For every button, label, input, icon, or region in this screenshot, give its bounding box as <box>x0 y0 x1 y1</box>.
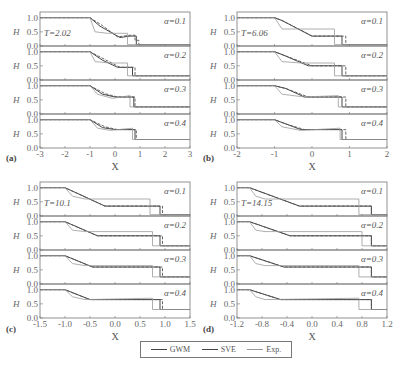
x-tick-label: -1.0 <box>58 319 73 329</box>
y-axis-label: H <box>209 61 217 71</box>
y-tick-label: 1.0 <box>224 115 236 125</box>
legend-item-exp: Exp. <box>247 345 281 354</box>
alpha-label: α=0.3 <box>361 84 384 94</box>
figure: 0.00.51.0Hα=0.1T=2.020.00.51.0Hα=0.20.00… <box>0 0 405 372</box>
y-tick-label: 1.0 <box>27 13 39 23</box>
y-tick-label: 0.5 <box>224 231 236 241</box>
panel-label: (c) <box>6 324 16 334</box>
y-tick-label: 1.0 <box>27 183 39 193</box>
y-tick-label: 0.5 <box>27 197 39 207</box>
x-axis-label: X <box>111 331 119 342</box>
y-tick-label: 1.0 <box>27 285 39 295</box>
x-tick-label: 3 <box>188 149 193 159</box>
panel-label: (a) <box>6 153 17 163</box>
time-label: T=14.15 <box>241 198 273 208</box>
x-tick-label: 0.4 <box>331 319 343 329</box>
x-tick-label: -0.5 <box>83 319 98 329</box>
x-axis-label: X <box>111 161 119 172</box>
subplot: 0.00.51.0Hα=0.2 <box>209 216 387 255</box>
legend-swatch-icon <box>247 349 263 350</box>
y-axis-label: H <box>209 95 217 105</box>
subplot: 0.00.51.0Hα=0.2 <box>12 216 190 255</box>
y-tick-label: 1.0 <box>27 47 39 57</box>
alpha-label: α=0.1 <box>164 186 186 196</box>
y-tick-label: 0.5 <box>27 129 39 139</box>
panel-a: 0.00.51.0Hα=0.1T=2.020.00.51.0Hα=0.20.00… <box>6 12 193 172</box>
panel-b: 0.00.51.0Hα=0.1T=6.060.00.51.0Hα=0.20.00… <box>203 12 389 172</box>
x-tick-label: 2 <box>163 149 168 159</box>
y-tick-label: 0.5 <box>224 265 236 275</box>
x-tick-label: -1.5 <box>33 319 48 329</box>
y-tick-label: 1.0 <box>224 217 236 227</box>
x-tick-label: 0 <box>310 149 315 159</box>
time-label: T=6.06 <box>241 28 268 38</box>
subplot: 0.00.51.0Hα=0.1T=6.06 <box>209 12 387 51</box>
alpha-label: α=0.3 <box>164 84 187 94</box>
x-tick-label: 1.0 <box>159 319 171 329</box>
y-tick-label: 1.0 <box>27 115 39 125</box>
x-tick-label: 0 <box>113 149 118 159</box>
time-label: T=10.1 <box>44 198 71 208</box>
subplot: 0.00.51.0Hα=0.1T=14.15 <box>209 182 387 221</box>
alpha-label: α=0.4 <box>164 118 187 128</box>
y-tick-label: 0.5 <box>27 27 39 37</box>
alpha-label: α=0.2 <box>361 220 384 230</box>
x-tick-label: -1 <box>86 149 94 159</box>
subplot: 0.00.51.0Hα=0.1T=2.02 <box>12 12 190 51</box>
legend-item-gwm: GWM <box>151 345 190 354</box>
y-tick-label: 1.0 <box>224 285 236 295</box>
x-tick-label: -3 <box>36 149 44 159</box>
subplot: 0.00.51.0Hα=0.1T=10.1 <box>12 182 190 221</box>
x-tick-label: -2 <box>61 149 69 159</box>
y-tick-label: 0.5 <box>27 299 39 309</box>
y-axis-label: H <box>209 197 217 207</box>
x-tick-label: 0.0 <box>109 319 121 329</box>
y-tick-label: 0.5 <box>27 265 39 275</box>
y-tick-label: 0.5 <box>27 61 39 71</box>
x-tick-label: 1 <box>138 149 143 159</box>
legend: GWM SVE Exp. <box>140 341 292 358</box>
y-axis-label: H <box>209 27 217 37</box>
y-tick-label: 0.5 <box>27 95 39 105</box>
y-tick-label: 1.0 <box>224 81 236 91</box>
y-tick-label: 0.5 <box>224 197 236 207</box>
x-tick-label: -1.2 <box>230 319 244 329</box>
y-tick-label: 1.0 <box>224 47 236 57</box>
y-tick-label: 0.5 <box>27 231 39 241</box>
subplot: 0.00.51.0Hα=0.4 <box>12 114 190 153</box>
alpha-label: α=0.4 <box>164 288 187 298</box>
y-axis-label: H <box>209 299 217 309</box>
subplot: 0.00.51.0Hα=0.3 <box>209 250 387 289</box>
y-tick-label: 1.0 <box>27 217 39 227</box>
alpha-label: α=0.1 <box>361 16 383 26</box>
x-tick-label: 1.5 <box>184 319 196 329</box>
legend-swatch-icon <box>202 349 218 350</box>
alpha-label: α=0.4 <box>361 118 384 128</box>
alpha-label: α=0.2 <box>164 50 187 60</box>
y-tick-label: 1.0 <box>224 13 236 23</box>
panel-c: 0.00.51.0Hα=0.1T=10.10.00.51.0Hα=0.20.00… <box>6 182 196 342</box>
subplot: 0.00.51.0Hα=0.4 <box>209 284 387 323</box>
x-axis-label: X <box>308 331 316 342</box>
x-tick-label: -1 <box>271 149 279 159</box>
x-tick-label: -0.4 <box>280 319 295 329</box>
y-axis-label: H <box>12 299 20 309</box>
y-tick-label: 1.0 <box>224 251 236 261</box>
y-tick-label: 1.0 <box>27 251 39 261</box>
legend-item-sve: SVE <box>202 345 236 354</box>
alpha-label: α=0.2 <box>361 50 384 60</box>
subplot: 0.00.51.0Hα=0.4 <box>209 114 387 153</box>
y-axis-label: H <box>12 61 20 71</box>
subplot: 0.00.51.0Hα=0.3 <box>12 80 190 119</box>
panel-d: 0.00.51.0Hα=0.1T=14.150.00.51.0Hα=0.20.0… <box>203 182 393 342</box>
legend-swatch-icon <box>151 349 167 350</box>
y-axis-label: H <box>12 197 20 207</box>
subplot: 0.00.51.0Hα=0.3 <box>12 250 190 289</box>
x-tick-label: -2 <box>233 149 241 159</box>
x-tick-label: 0.8 <box>356 319 368 329</box>
y-axis-label: H <box>209 231 217 241</box>
subplot: 0.00.51.0Hα=0.2 <box>209 46 387 85</box>
x-tick-label: -0.8 <box>255 319 270 329</box>
subplot: 0.00.51.0Hα=0.4 <box>12 284 190 323</box>
y-axis-label: H <box>12 95 20 105</box>
